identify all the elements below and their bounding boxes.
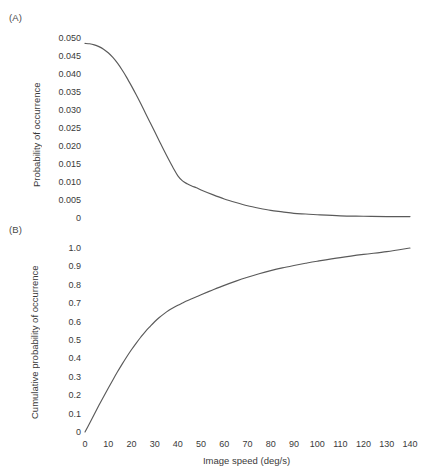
panel-a-ytick-0.035: 0.035 — [47, 87, 81, 97]
panel-a-ytick-0.050: 0.050 — [47, 33, 81, 43]
panel-b-ytick-0.4: 0.4 — [47, 353, 81, 363]
xtick-60: 60 — [219, 439, 229, 449]
panel-b-y-axis-title: Cumulative probability of occurrence — [29, 248, 40, 436]
x-axis-title: Image speed (deg/s) — [0, 455, 433, 466]
xtick-100: 100 — [310, 439, 325, 449]
panel-a-ytick-0.015: 0.015 — [47, 159, 81, 169]
panel-a-ytick-0.025: 0.025 — [47, 123, 81, 133]
panel-b-ytick-0.5: 0.5 — [47, 335, 81, 345]
panel-a-curve — [85, 43, 410, 216]
xtick-130: 130 — [379, 439, 394, 449]
panel-b-ytick-0.8: 0.8 — [47, 280, 81, 290]
panel-b-ytick-0.2: 0.2 — [47, 390, 81, 400]
xtick-40: 40 — [173, 439, 183, 449]
xtick-50: 50 — [196, 439, 206, 449]
panel-b-ytick-0.1: 0.1 — [47, 409, 81, 419]
xtick-70: 70 — [242, 439, 252, 449]
xtick-90: 90 — [289, 439, 299, 449]
panel-a-ytick-0.005: 0.005 — [47, 195, 81, 205]
xtick-120: 120 — [356, 439, 371, 449]
xtick-30: 30 — [150, 439, 160, 449]
xtick-140: 140 — [402, 439, 417, 449]
panel-b-ytick-0.3: 0.3 — [47, 372, 81, 382]
panel-a-ytick-0.020: 0.020 — [47, 141, 81, 151]
panel-a-ytick-0: 0 — [47, 213, 81, 223]
panel-b-ytick-0.7: 0.7 — [47, 298, 81, 308]
panel-b-ytick-0.9: 0.9 — [47, 261, 81, 271]
panel-a-ytick-0.030: 0.030 — [47, 105, 81, 115]
panel-b-ytick-1.0: 1.0 — [47, 243, 81, 253]
panel-b-ytick-0.6: 0.6 — [47, 317, 81, 327]
panel-b-curve — [85, 248, 410, 432]
panel-a-ytick-0.010: 0.010 — [47, 177, 81, 187]
xtick-10: 10 — [103, 439, 113, 449]
panel-label-b: (B) — [9, 224, 22, 235]
panel-a-y-axis-title: Probability of occurrence — [31, 52, 42, 217]
xtick-20: 20 — [126, 439, 136, 449]
xtick-0: 0 — [82, 439, 87, 449]
panel-a-ytick-0.040: 0.040 — [47, 69, 81, 79]
figure-container: (A) (B) Probability of occurrence Cumula… — [0, 0, 433, 472]
x-axis-title-text: Image speed (deg/s) — [143, 455, 290, 466]
xtick-80: 80 — [266, 439, 276, 449]
panel-a-ytick-0.045: 0.045 — [47, 51, 81, 61]
panel-b-ytick-0: 0 — [47, 427, 81, 437]
xtick-110: 110 — [333, 439, 347, 449]
panel-label-a: (A) — [9, 12, 22, 23]
